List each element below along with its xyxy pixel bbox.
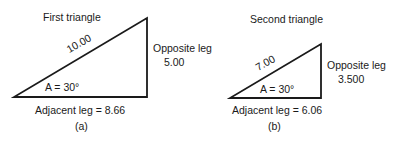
first-caption: (a) (75, 121, 88, 132)
first-triangle-shape (14, 18, 147, 97)
second-opposite-leg-label: Opposite leg (327, 60, 386, 71)
first-opposite-leg-label: Opposite leg (153, 43, 212, 54)
first-angle-label: A = 30° (45, 82, 79, 93)
second-opposite-leg-value: 3.500 (338, 74, 364, 85)
second-caption: (b) (268, 121, 281, 132)
first-triangle-title: First triangle (43, 12, 101, 23)
second-triangle-title: Second triangle (250, 14, 323, 25)
second-angle-label: A = 30° (260, 84, 294, 95)
first-opposite-leg-value: 5.00 (164, 57, 184, 68)
second-adjacent-leg-label: Adjacent leg = 6.06 (232, 105, 322, 116)
first-adjacent-leg-label: Adjacent leg = 8.66 (35, 105, 125, 116)
